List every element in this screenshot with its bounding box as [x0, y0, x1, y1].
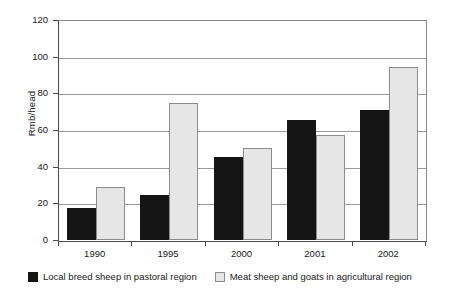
bar-2002-series2	[389, 67, 418, 240]
x-tick-label-2001: 2001	[285, 248, 345, 259]
x-tick-mark-4	[352, 241, 353, 246]
legend-entry-2: Meat sheep and goats in agricultural reg…	[215, 271, 412, 282]
legend-label-2: Meat sheep and goats in agricultural reg…	[230, 271, 412, 282]
legend: Local breed sheep in pastoral regionMeat…	[28, 271, 412, 282]
x-tick-mark-3	[278, 241, 279, 246]
y-tick-label-60: 60	[8, 125, 48, 135]
x-tick-mark-2	[205, 241, 206, 246]
legend-swatch-dark	[28, 272, 38, 282]
x-tick-mark-1	[131, 241, 132, 246]
x-tick-label-1995: 1995	[138, 248, 198, 259]
bar-1995-series1	[140, 195, 169, 240]
y-tick-label-20: 20	[8, 198, 48, 208]
bar-1990-series2	[96, 187, 125, 240]
x-tick-label-1990: 1990	[65, 248, 125, 259]
y-tick-mark-100	[53, 57, 58, 58]
bar-2000-series1	[214, 157, 243, 240]
x-tick-label-2000: 2000	[212, 248, 272, 259]
x-tick-mark-0	[58, 241, 59, 246]
x-tick-label-2002: 2002	[358, 248, 418, 259]
y-tick-label-40: 40	[8, 162, 48, 172]
bar-1995-series2	[169, 103, 198, 240]
y-tick-mark-120	[53, 20, 58, 21]
bars-layer	[59, 21, 426, 240]
bar-1990-series1	[67, 208, 96, 240]
bar-2000-series2	[243, 148, 272, 240]
y-tick-mark-40	[53, 167, 58, 168]
legend-label-1: Local breed sheep in pastoral region	[43, 271, 197, 282]
bar-chart: Rmb/head 120100806040200 199019952000200…	[0, 0, 449, 292]
bar-2001-series1	[287, 120, 316, 240]
y-axis-title: Rmb/head	[26, 59, 37, 169]
legend-swatch-light	[215, 272, 225, 282]
y-tick-mark-60	[53, 130, 58, 131]
y-tick-label-120: 120	[8, 15, 48, 25]
y-tick-mark-80	[53, 93, 58, 94]
bar-2002-series1	[360, 110, 389, 240]
y-tick-label-80: 80	[8, 88, 48, 98]
x-tick-mark-5	[425, 241, 426, 246]
y-tick-mark-20	[53, 203, 58, 204]
y-tick-label-100: 100	[8, 52, 48, 62]
legend-entry-1: Local breed sheep in pastoral region	[28, 271, 197, 282]
y-tick-label-0: 0	[8, 235, 48, 245]
bar-2001-series2	[316, 135, 345, 240]
